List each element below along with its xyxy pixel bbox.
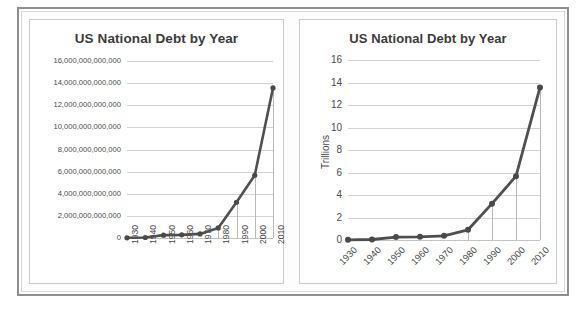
data-point-marker: [465, 227, 471, 233]
data-series: [127, 61, 273, 238]
data-point-marker: [216, 225, 221, 230]
x-axis-tick-label: 2010: [277, 225, 286, 244]
data-point-marker: [345, 237, 351, 243]
dropline: [273, 88, 274, 238]
data-point-marker: [393, 234, 399, 240]
data-point-marker: [252, 173, 257, 178]
data-point-marker: [234, 200, 239, 205]
y-axis-tick-label: 2,000,000,000,000: [58, 212, 121, 220]
y-axis-tick-label: 14,000,000,000,000: [53, 79, 121, 87]
data-point-marker: [417, 234, 423, 240]
data-point-marker: [124, 235, 129, 240]
y-axis-tick-label: 8: [336, 145, 342, 155]
data-point-marker: [489, 201, 495, 207]
y-axis-tick-label: 16: [331, 55, 342, 65]
chart-left: US National Debt by Year 02,000,000,000,…: [29, 19, 284, 284]
data-point-marker: [441, 233, 447, 239]
y-axis-tick-label: 16,000,000,000,000: [53, 57, 121, 65]
chart-right-title: US National Debt by Year: [300, 31, 556, 46]
data-point-marker: [161, 233, 166, 238]
data-point-marker: [537, 84, 543, 90]
y-axis-tick-label: 6,000,000,000,000: [58, 168, 121, 176]
y-axis-tick-label: 0: [117, 234, 121, 242]
data-point-marker: [179, 232, 184, 237]
y-axis-tick-label: 4: [336, 190, 342, 200]
y-axis-tick-label: 4,000,000,000,000: [58, 190, 121, 198]
y-axis-tick-label: 8,000,000,000,000: [58, 146, 121, 154]
y-axis-tick-label: 10,000,000,000,000: [53, 124, 121, 132]
y-axis-tick-label: 10: [331, 123, 342, 133]
y-axis-tick-label: 6: [336, 168, 342, 178]
data-point-marker: [513, 173, 519, 179]
data-series: [348, 60, 540, 240]
y-axis-tick-label: 2: [336, 213, 342, 223]
y-axis-tick-label: 12: [331, 100, 342, 110]
y-axis-tick-label: 12,000,000,000,000: [53, 101, 121, 109]
y-axis-tick-label: 14: [331, 78, 342, 88]
data-point-marker: [369, 237, 375, 243]
chart-left-plot-area: 02,000,000,000,0004,000,000,000,0006,000…: [127, 61, 273, 238]
data-point-marker: [270, 85, 275, 90]
dropline: [540, 87, 541, 240]
chart-left-title: US National Debt by Year: [30, 31, 283, 46]
data-point-marker: [197, 231, 202, 236]
chart-right: US National Debt by Year Trillions 02468…: [299, 19, 557, 284]
chart-right-y-axis-title: Trillions: [320, 134, 331, 168]
chart-right-plot-area: 0246810121416193019401950196019701980199…: [348, 60, 540, 240]
data-point-marker: [143, 235, 148, 240]
y-axis-tick-label: 0: [336, 235, 342, 245]
scanned-page-frame: US National Debt by Year 02,000,000,000,…: [17, 7, 569, 296]
